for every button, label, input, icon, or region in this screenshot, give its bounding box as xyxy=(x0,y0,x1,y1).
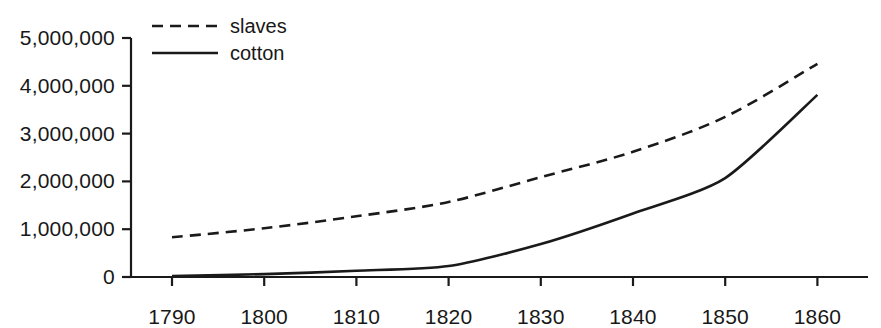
x-axis-tick-label: 1810 xyxy=(333,305,381,328)
x-axis-tick-label: 1820 xyxy=(425,305,473,328)
series-line-slaves xyxy=(172,64,817,238)
x-axis-tick-label: 1830 xyxy=(517,305,565,328)
x-axis-tick-label: 1800 xyxy=(240,305,288,328)
y-axis-ticks xyxy=(122,38,131,277)
x-axis-tick-label: 1790 xyxy=(148,305,196,328)
x-axis-tick-label: 1850 xyxy=(701,305,749,328)
y-axis-tick-label: 1,000,000 xyxy=(0,217,115,241)
legend-label-slaves: slaves xyxy=(230,15,287,38)
y-axis-tick-label: 4,000,000 xyxy=(0,74,115,98)
y-axis-tick-label: 3,000,000 xyxy=(0,122,115,146)
x-axis-ticks xyxy=(172,277,817,286)
series-line-cotton xyxy=(172,95,817,276)
y-axis-tick-label: 5,000,000 xyxy=(0,26,115,50)
x-axis-tick-label: 1860 xyxy=(794,305,842,328)
y-axis-tick-label: 0 xyxy=(0,265,115,289)
legend-label-cotton: cotton xyxy=(230,42,284,65)
y-axis-tick-label: 2,000,000 xyxy=(0,169,115,193)
x-axis-tick-label: 1840 xyxy=(609,305,657,328)
